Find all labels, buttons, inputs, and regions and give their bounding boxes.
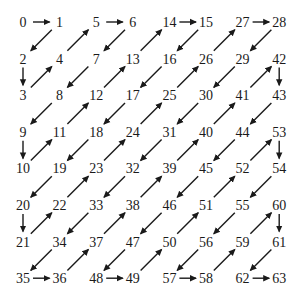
- scan-arrow: [104, 176, 125, 197]
- cell-label: 38: [126, 198, 140, 213]
- scan-arrow: [67, 30, 88, 51]
- scan-arrow: [250, 176, 271, 197]
- scan-arrow: [31, 103, 52, 124]
- scan-arrow: [214, 213, 235, 234]
- cell-label: 15: [199, 15, 213, 30]
- cell-label: 52: [236, 161, 250, 176]
- cell-label: 8: [56, 88, 63, 103]
- scan-arrow: [31, 66, 52, 87]
- cell-label: 36: [53, 271, 67, 286]
- scan-arrow: [104, 66, 125, 87]
- cell-label: 1: [56, 15, 63, 30]
- scan-arrow: [214, 30, 235, 51]
- scan-arrow: [177, 213, 198, 234]
- cell-label: 40: [199, 125, 213, 140]
- scan-arrow: [104, 213, 125, 234]
- cell-label: 27: [236, 15, 250, 30]
- cell-label: 56: [199, 235, 213, 250]
- cell-label: 20: [16, 198, 30, 213]
- cell-label: 22: [53, 198, 67, 213]
- scan-arrow: [104, 103, 125, 124]
- cell-label: 51: [199, 198, 213, 213]
- scan-arrow: [31, 30, 52, 51]
- scan-arrow: [250, 140, 271, 161]
- cell-label: 45: [199, 161, 213, 176]
- cell-label: 19: [53, 161, 67, 176]
- scan-arrow: [141, 176, 162, 197]
- cell-label: 10: [16, 161, 30, 176]
- cell-label: 43: [272, 88, 286, 103]
- cell-label: 23: [89, 161, 103, 176]
- cell-label: 46: [162, 198, 176, 213]
- scan-arrow: [250, 30, 271, 51]
- cell-label: 34: [53, 235, 67, 250]
- cell-label: 59: [236, 235, 250, 250]
- scan-arrow: [250, 103, 271, 124]
- cell-label: 14: [162, 15, 176, 30]
- scan-arrow: [104, 249, 125, 270]
- cell-label: 32: [126, 161, 140, 176]
- cell-label: 4: [56, 52, 63, 67]
- cell-label: 6: [129, 15, 136, 30]
- cell-label: 39: [162, 161, 176, 176]
- cell-label: 63: [272, 271, 286, 286]
- scan-arrow: [67, 66, 88, 87]
- cell-label: 57: [162, 271, 176, 286]
- scan-arrow: [177, 140, 198, 161]
- scan-arrow: [141, 66, 162, 87]
- cell-label: 53: [272, 125, 286, 140]
- cell-label: 33: [89, 198, 103, 213]
- cell-label: 49: [126, 271, 140, 286]
- scan-arrow: [31, 249, 52, 270]
- zigzag-scan-diagram: 0156141527282471316262942381217253041439…: [0, 0, 294, 295]
- cell-label: 50: [162, 235, 176, 250]
- cell-label: 26: [199, 52, 213, 67]
- scan-arrow: [177, 66, 198, 87]
- cell-label: 62: [236, 271, 250, 286]
- cell-label: 13: [126, 52, 140, 67]
- cell-label: 25: [162, 88, 176, 103]
- cell-label: 31: [162, 125, 176, 140]
- scan-arrow: [177, 30, 198, 51]
- cell-label: 44: [236, 125, 250, 140]
- cell-label: 30: [199, 88, 213, 103]
- scan-arrow: [67, 213, 88, 234]
- cell-label: 28: [272, 15, 286, 30]
- cell-label: 37: [89, 235, 103, 250]
- cell-label: 2: [20, 52, 27, 67]
- cell-label: 47: [126, 235, 140, 250]
- cell-label: 60: [272, 198, 286, 213]
- cell-label: 35: [16, 271, 30, 286]
- cell-label: 17: [126, 88, 140, 103]
- cell-label: 5: [93, 15, 100, 30]
- cell-label: 42: [272, 52, 286, 67]
- scan-arrow: [250, 249, 271, 270]
- cell-label: 16: [162, 52, 176, 67]
- cell-label: 41: [236, 88, 250, 103]
- scan-arrow: [141, 249, 162, 270]
- cell-label: 24: [126, 125, 140, 140]
- cell-label: 11: [53, 125, 66, 140]
- scan-arrow: [214, 249, 235, 270]
- cell-label: 18: [89, 125, 103, 140]
- scan-arrow: [67, 249, 88, 270]
- cell-label: 58: [199, 271, 213, 286]
- scan-arrow: [214, 66, 235, 87]
- scan-arrow: [141, 140, 162, 161]
- scan-arrow: [104, 140, 125, 161]
- cell-label: 0: [20, 15, 27, 30]
- scan-arrow: [67, 103, 88, 124]
- scan-arrow: [250, 213, 271, 234]
- scan-arrow: [31, 140, 52, 161]
- scan-arrow: [214, 140, 235, 161]
- cell-label: 12: [89, 88, 103, 103]
- scan-arrow: [177, 103, 198, 124]
- scan-arrow: [177, 249, 198, 270]
- scan-arrow: [141, 213, 162, 234]
- cell-label: 48: [89, 271, 103, 286]
- scan-arrow: [214, 176, 235, 197]
- cell-label: 61: [272, 235, 286, 250]
- cell-label: 54: [272, 161, 286, 176]
- cell-label: 3: [20, 88, 27, 103]
- scan-arrow: [214, 103, 235, 124]
